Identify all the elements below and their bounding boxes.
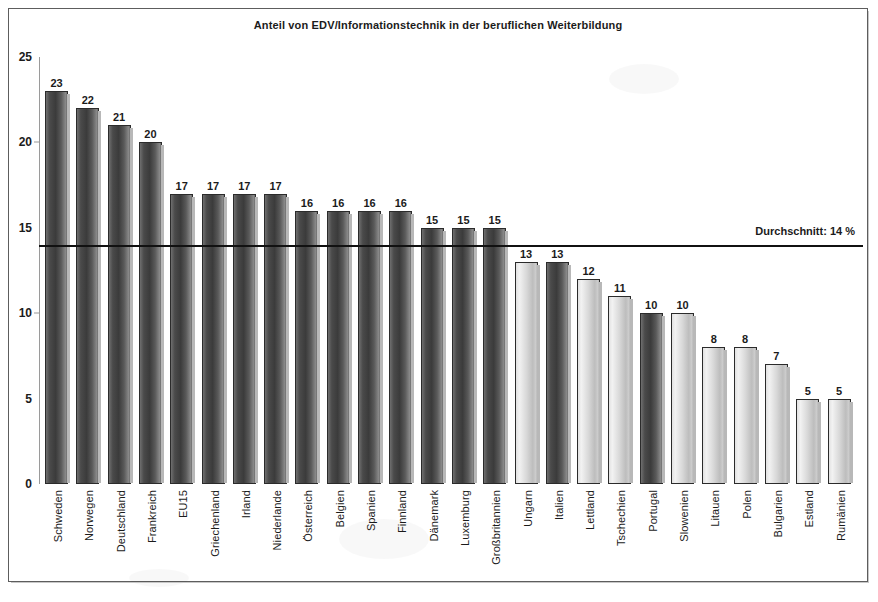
bar-value-label: 17 — [269, 180, 281, 192]
x-axis-category-label: Bulgarien — [772, 490, 784, 537]
x-axis-category-label: Ungarn — [522, 490, 534, 527]
bar[interactable]: 12 — [577, 279, 600, 484]
bar-slot: 22Norwegen — [74, 57, 104, 484]
bar[interactable]: 21 — [108, 125, 131, 484]
bar[interactable]: 13 — [546, 262, 569, 484]
bar-value-label: 5 — [805, 385, 811, 397]
y-tick-label-15: 15 — [19, 221, 32, 235]
bar-value-label: 13 — [551, 248, 563, 260]
bar-value-label: 15 — [489, 214, 501, 226]
bar-slot: 21Deutschland — [106, 57, 136, 484]
bar[interactable]: 23 — [45, 91, 68, 484]
bar-value-label: 5 — [836, 385, 842, 397]
bar[interactable]: 8 — [734, 347, 757, 484]
bar[interactable]: 10 — [640, 313, 663, 484]
bar-value-label: 13 — [520, 248, 532, 260]
bar-slot: 15Dänemark — [419, 57, 449, 484]
x-axis-category-label: Irland — [240, 490, 252, 518]
bar[interactable]: 17 — [202, 194, 225, 484]
average-line-label: Durchschnitt: 14 % — [755, 225, 855, 237]
bar-value-label: 20 — [144, 128, 156, 140]
bar-slot: 17Niederlande — [262, 57, 292, 484]
bar[interactable]: 16 — [358, 211, 381, 484]
chart-title: Anteil von EDV/Informationstechnik in de… — [9, 19, 867, 31]
bar[interactable]: 5 — [828, 399, 851, 484]
bar-value-label: 17 — [207, 180, 219, 192]
bar-slot: 8Litauen — [700, 57, 730, 484]
bar-value-label: 16 — [301, 197, 313, 209]
bar[interactable]: 5 — [796, 399, 819, 484]
scan-artifact — [129, 569, 189, 587]
x-axis-category-label: Norwegen — [83, 490, 95, 541]
bar-value-label: 22 — [82, 94, 94, 106]
bar-slot: 13Italien — [544, 57, 574, 484]
bar[interactable]: 22 — [76, 108, 99, 484]
bar-series: 23Schweden22Norwegen21Deutschland20Frank… — [43, 57, 861, 484]
bar[interactable]: 16 — [295, 211, 318, 484]
bar-slot: 17EU15 — [168, 57, 198, 484]
x-axis-category-label: Schweden — [52, 490, 64, 542]
x-axis-category-label: Estland — [803, 490, 815, 527]
bar-slot: 10Portugal — [638, 57, 668, 484]
bar[interactable]: 13 — [515, 262, 538, 484]
bar[interactable]: 15 — [421, 228, 444, 484]
bar-value-label: 16 — [332, 197, 344, 209]
bar[interactable]: 15 — [452, 228, 475, 484]
x-axis-category-label: Polen — [741, 490, 753, 519]
bar-slot: 16Finnland — [387, 57, 417, 484]
plot-area: 0510152025 23Schweden22Norwegen21Deutsch… — [39, 57, 861, 484]
x-axis-category-label: Deutschland — [115, 490, 127, 552]
bar-slot: 7Bulgarien — [763, 57, 793, 484]
bar[interactable]: 8 — [702, 347, 725, 484]
x-axis-category-label: Niederlande — [271, 490, 283, 550]
bar[interactable]: 16 — [327, 211, 350, 484]
bar-slot: 16Spanien — [356, 57, 386, 484]
bar-slot: 23Schweden — [43, 57, 73, 484]
x-axis-category-label: Lettland — [584, 490, 596, 530]
bar[interactable]: 15 — [483, 228, 506, 484]
x-axis-category-label: Frankreich — [146, 490, 158, 543]
bar-value-label: 15 — [426, 214, 438, 226]
bar[interactable]: 16 — [389, 211, 412, 484]
bar[interactable]: 10 — [671, 313, 694, 484]
bar-value-label: 17 — [238, 180, 250, 192]
x-axis-category-label: EU15 — [177, 490, 189, 518]
scan-artifact — [339, 519, 429, 559]
bar-slot: 8Polen — [732, 57, 762, 484]
bar-value-label: 8 — [711, 333, 717, 345]
y-tick-label-25: 25 — [19, 50, 32, 64]
x-axis-category-label: Belgien — [334, 490, 346, 527]
bar[interactable]: 7 — [765, 364, 788, 484]
bar-slot: 10Slowenien — [669, 57, 699, 484]
bar-value-label: 21 — [113, 111, 125, 123]
bar-slot: 16Österreich — [293, 57, 323, 484]
x-axis-category-label: Österreich — [302, 490, 314, 542]
bar-value-label: 11 — [614, 282, 626, 294]
x-axis-category-label: Italien — [553, 490, 565, 520]
bar-slot: 5Rumänien — [826, 57, 856, 484]
x-axis-category-label: Finnland — [396, 490, 408, 533]
bar-slot: 12Lettland — [575, 57, 605, 484]
x-axis-category-label: Litauen — [709, 490, 721, 527]
bar[interactable]: 20 — [139, 142, 162, 484]
bar-value-label: 12 — [582, 265, 594, 277]
bar[interactable]: 17 — [264, 194, 287, 484]
average-line — [39, 245, 863, 247]
x-axis-category-label: Rumänien — [835, 490, 847, 541]
bar-value-label: 17 — [176, 180, 188, 192]
x-axis-category-label: Spanien — [365, 490, 377, 531]
y-tick-mark-10 — [34, 313, 40, 314]
bar[interactable]: 17 — [233, 194, 256, 484]
y-tick-label-10: 10 — [19, 306, 32, 320]
x-axis-category-label: Luxemburg — [459, 490, 471, 546]
x-axis-category-label: Portugal — [647, 490, 659, 532]
bar-value-label: 23 — [50, 77, 62, 89]
bar-slot: 11Tschechien — [606, 57, 636, 484]
bar-value-label: 15 — [457, 214, 469, 226]
bar-value-label: 10 — [645, 299, 657, 311]
bar-slot: 20Frankreich — [137, 57, 167, 484]
bar[interactable]: 17 — [170, 194, 193, 484]
y-tick-mark-20 — [34, 142, 40, 143]
bar-slot: 17Irland — [231, 57, 261, 484]
bar[interactable]: 11 — [608, 296, 631, 484]
